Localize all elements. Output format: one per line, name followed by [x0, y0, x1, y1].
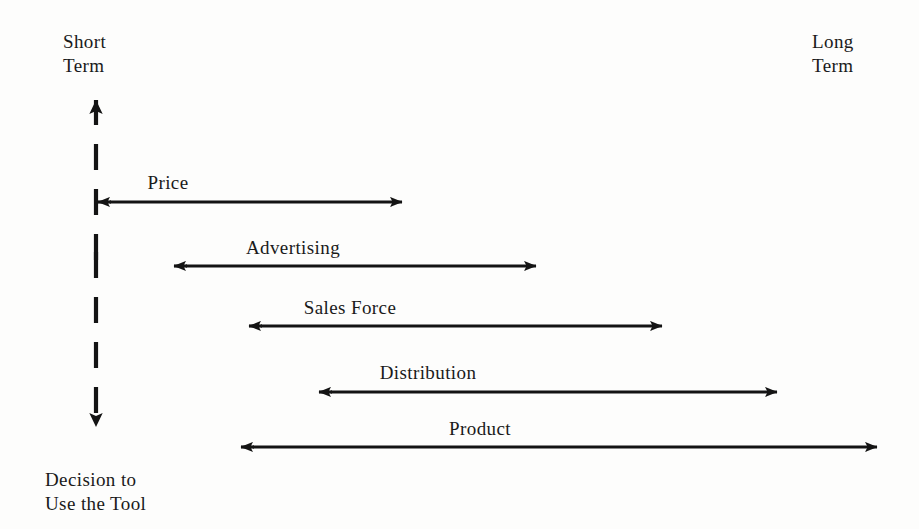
advertising-label: Advertising — [246, 237, 340, 259]
short-term-axis-label: Short Term — [63, 30, 106, 79]
price-label: Price — [147, 172, 188, 194]
tool-arrow-group — [98, 202, 877, 447]
long-term-axis-label: Long Term — [812, 30, 854, 79]
distribution-label: Distribution — [380, 362, 477, 384]
decision-to-use-tool-label: Decision to Use the Tool — [45, 468, 146, 517]
diagram-graphics — [0, 0, 919, 529]
product-label: Product — [449, 418, 511, 440]
sales-force-label: Sales Force — [304, 297, 397, 319]
diagram-canvas: Short Term Long Term Decision to Use the… — [0, 0, 919, 529]
